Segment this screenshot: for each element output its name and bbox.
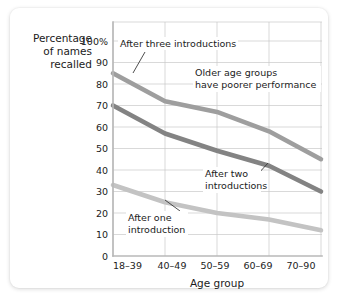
xtick-40-49: 40–49 [158, 260, 187, 271]
xtick-70-90: 70–90 [287, 260, 316, 271]
y-axis-caption-line-3: recalled [50, 58, 92, 70]
annotation-after-one-line-2: introduction [128, 224, 185, 235]
ytick-90: 90 [96, 57, 108, 68]
ytick-60: 60 [96, 122, 108, 133]
ytick-10: 10 [96, 229, 108, 240]
annotation-after-two-line-2: introductions [205, 180, 267, 191]
annotation-after-two-line-1: After two [205, 168, 248, 179]
ytick-50: 50 [96, 143, 108, 154]
xtick-50-59: 50–59 [201, 260, 230, 271]
line-chart: Percentage of names recalled [0, 0, 338, 303]
annotation-older-age-groups: Older age groups have poorer performance [193, 66, 321, 92]
annotation-after-one-line-1: After one [128, 212, 172, 223]
xtick-60-69: 60–69 [244, 260, 273, 271]
annotation-after-two-introductions: After two introductions [203, 163, 268, 193]
x-axis-title: Age group [190, 277, 244, 289]
annotation-older-age-line-2: have poorer performance [195, 79, 316, 90]
ytick-20: 20 [96, 208, 108, 219]
x-axis-tick-labels: 18–39 40–49 50–59 60–69 70–90 [113, 260, 315, 271]
ytick-70: 70 [96, 100, 108, 111]
annotation-after-three-line-1: After three introductions [120, 38, 236, 49]
y-axis-caption-line-2: of names [43, 45, 92, 57]
ytick-80: 80 [96, 79, 108, 90]
xtick-18-39: 18–39 [113, 260, 142, 271]
figure-root: Percentage of names recalled [0, 0, 338, 303]
ytick-30: 30 [96, 186, 108, 197]
ytick-40: 40 [96, 165, 108, 176]
ytick-100: 100% [81, 36, 108, 47]
annotation-older-age-line-1: Older age groups [195, 67, 277, 78]
ytick-0: 0 [102, 251, 108, 262]
